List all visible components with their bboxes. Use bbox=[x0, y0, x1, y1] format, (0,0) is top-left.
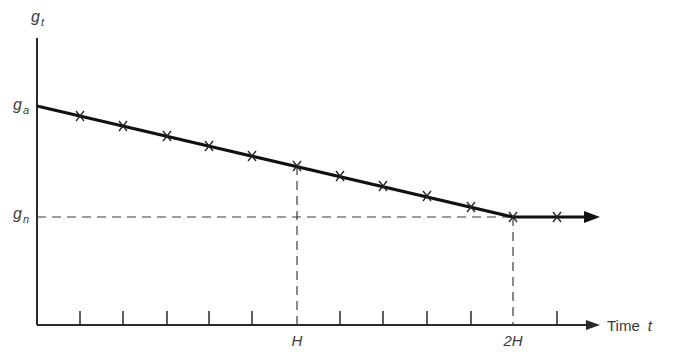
series-arrow-icon bbox=[584, 211, 600, 223]
gn-label: gn bbox=[13, 205, 29, 225]
2h-tick-label: 2H bbox=[502, 332, 522, 349]
x-axis-label: Timet bbox=[607, 317, 653, 334]
diagram-canvas: gt ga gn H 2H Timet bbox=[0, 0, 681, 356]
y-axis-label: gt bbox=[31, 8, 45, 28]
x-axis-arrow-icon bbox=[586, 320, 600, 330]
x-ticks bbox=[80, 311, 557, 325]
series-markers bbox=[76, 111, 561, 222]
ga-label: ga bbox=[13, 96, 29, 116]
h-tick-label: H bbox=[292, 332, 303, 349]
